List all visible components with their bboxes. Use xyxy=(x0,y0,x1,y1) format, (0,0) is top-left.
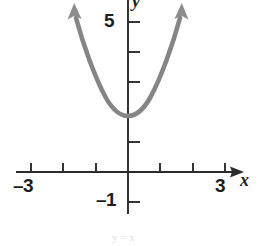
parabola-plot xyxy=(0,0,260,246)
y-axis-label-neg1: –1 xyxy=(96,190,116,209)
x-axis-name: x xyxy=(240,171,249,189)
y-axis-label-five: 5 xyxy=(104,11,114,30)
x-axis-label-neg3: –3 xyxy=(13,176,33,195)
scan-bleed-bottom: y = x xyxy=(112,231,135,243)
x-axis-group xyxy=(16,167,244,178)
x-axis-label-pos3: 3 xyxy=(215,176,225,195)
y-axis-name: y xyxy=(132,0,140,10)
figure-root: –3 3 5 –1 x y y = x xyxy=(0,0,260,246)
